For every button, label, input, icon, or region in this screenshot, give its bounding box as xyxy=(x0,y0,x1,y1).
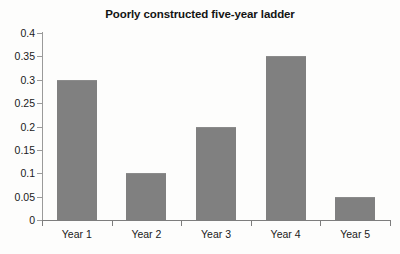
x-axis-tick xyxy=(320,221,321,226)
y-axis-tick-label: 0.05 xyxy=(0,191,35,203)
y-axis-tick-label: 0.15 xyxy=(0,144,35,156)
bar-chart-figure: Poorly constructed five-year ladder 00.0… xyxy=(0,0,400,254)
y-axis-tick-label: 0.2 xyxy=(0,121,35,133)
y-axis-tick-label: 0.3 xyxy=(0,74,35,86)
x-axis-line xyxy=(42,220,391,221)
plot-area xyxy=(42,33,390,220)
x-axis-tick-label: Year 2 xyxy=(131,228,161,240)
x-axis-tick xyxy=(42,221,43,226)
x-axis-tick xyxy=(390,221,391,226)
x-axis-tick xyxy=(181,221,182,226)
x-axis-tick-label: Year 5 xyxy=(340,228,370,240)
chart-title: Poorly constructed five-year ladder xyxy=(0,8,400,20)
x-axis-tick-label: Year 3 xyxy=(201,228,231,240)
y-axis-tick-label: 0.4 xyxy=(0,27,35,39)
x-axis-tick xyxy=(112,221,113,226)
x-axis-tick-label: Year 1 xyxy=(62,228,92,240)
x-axis-tick xyxy=(251,221,252,226)
x-axis-tick-label: Year 4 xyxy=(271,228,301,240)
y-axis-tick-label: 0 xyxy=(0,214,35,226)
bar xyxy=(266,56,306,220)
bar xyxy=(196,127,236,221)
bar xyxy=(126,173,166,220)
bar xyxy=(57,80,97,220)
y-axis-tick-label: 0.35 xyxy=(0,50,35,62)
bar xyxy=(335,197,375,220)
y-axis-tick-label: 0.1 xyxy=(0,167,35,179)
y-axis-tick-label: 0.25 xyxy=(0,97,35,109)
